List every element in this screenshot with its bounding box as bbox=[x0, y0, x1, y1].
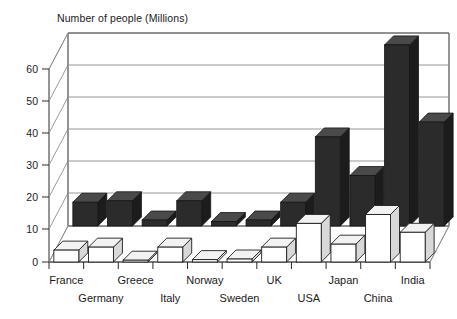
x-tick-label-germany: Germany bbox=[78, 292, 124, 304]
y-tick-label: 50 bbox=[26, 95, 38, 107]
x-tick-label-norway: Norway bbox=[186, 274, 224, 286]
bar-back-usa-side bbox=[340, 128, 349, 226]
x-tick-marks bbox=[49, 262, 430, 269]
x-tick-label-greece: Greece bbox=[118, 274, 154, 286]
bar-back-china-side bbox=[410, 36, 419, 226]
bar-back-china-face bbox=[385, 45, 410, 226]
bar-back-norway-face bbox=[211, 222, 236, 226]
bar-front-greece-face bbox=[123, 260, 148, 262]
y-tick-label: 60 bbox=[26, 63, 38, 75]
x-tick-labels: FranceGermanyGreeceItalyNorwaySwedenUKUS… bbox=[49, 274, 425, 304]
chart-figure: Number of people (Millions) bbox=[0, 0, 457, 319]
y-tick-label: 20 bbox=[26, 191, 38, 203]
y-tick-label: 30 bbox=[26, 159, 38, 171]
bar-front-india-face bbox=[400, 232, 425, 262]
bar-front-japan-face bbox=[331, 244, 356, 262]
bar-front-germany-face bbox=[88, 247, 113, 262]
x-tick-label-uk: UK bbox=[266, 274, 282, 286]
x-tick-label-sweden: Sweden bbox=[220, 292, 260, 304]
bar-back-greece-face bbox=[142, 220, 167, 226]
x-tick-label-italy: Italy bbox=[160, 292, 181, 304]
bar-front-france-face bbox=[54, 250, 79, 262]
bar-chart-canvas: Number of people (Millions) bbox=[0, 0, 457, 319]
bar-back-india-side bbox=[444, 113, 453, 226]
x-tick-label-japan: Japan bbox=[328, 274, 358, 286]
bar-front-china-side bbox=[391, 205, 400, 262]
bar-back-italy-face bbox=[177, 201, 202, 226]
x-tick-label-usa: USA bbox=[297, 292, 320, 304]
x-tick-label-china: China bbox=[364, 292, 394, 304]
bar-back-india-face bbox=[419, 122, 444, 226]
bar-front-italy-face bbox=[158, 247, 183, 262]
x-tick-label-france: France bbox=[49, 274, 83, 286]
bar-back-usa-face bbox=[315, 137, 340, 226]
bar-front-uk-face bbox=[262, 247, 287, 262]
bars-layer bbox=[54, 36, 453, 262]
depth-connectors bbox=[49, 33, 68, 262]
bar-front-norway-face bbox=[192, 260, 217, 262]
bar-back-germany-face bbox=[107, 201, 132, 226]
bar-back-france-face bbox=[73, 202, 98, 226]
bar-front-greece-top bbox=[123, 251, 157, 260]
bar-front-usa-face bbox=[296, 223, 321, 262]
y-tick-labels: 60 50 40 30 20 10 0 bbox=[26, 63, 38, 268]
bar-front-china-face bbox=[366, 214, 391, 262]
bar-back-sweden-face bbox=[246, 220, 271, 226]
y-tick-marks bbox=[42, 69, 49, 262]
y-tick-label: 10 bbox=[26, 223, 38, 235]
chart-title: Number of people (Millions) bbox=[57, 12, 188, 24]
bar-front-sweden-face bbox=[227, 259, 252, 262]
y-tick-label: 0 bbox=[32, 256, 38, 268]
x-tick-label-india: India bbox=[401, 274, 426, 286]
y-tick-label: 40 bbox=[26, 127, 38, 139]
